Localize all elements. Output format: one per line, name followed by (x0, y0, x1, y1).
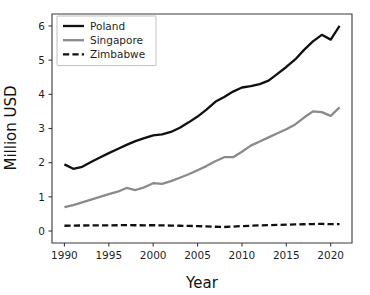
x-tick-label: 2010 (229, 249, 256, 261)
y-tick-label: 2 (38, 156, 45, 168)
x-tick-label: 2005 (184, 249, 211, 261)
y-tick-label: 3 (38, 122, 45, 134)
y-axis-ticks: 0123456 (38, 20, 52, 237)
x-axis-ticks: 1990199520002005201020152020 (51, 243, 344, 261)
y-axis-title: Million USD (2, 85, 20, 170)
legend-label-zimbabwe: Zimbabwe (90, 48, 145, 60)
x-tick-label: 2015 (273, 249, 300, 261)
y-tick-label: 4 (38, 88, 45, 100)
y-tick-label: 0 (38, 225, 45, 237)
legend-label-singapore: Singapore (90, 34, 143, 46)
chart-figure: 1990199520002005201020152020 0123456 Pol… (0, 0, 370, 295)
line-chart: 1990199520002005201020152020 0123456 Pol… (0, 0, 370, 295)
legend-label-poland: Poland (90, 20, 125, 32)
y-tick-label: 6 (38, 20, 45, 32)
x-tick-label: 2000 (140, 249, 167, 261)
y-tick-label: 1 (38, 191, 45, 203)
chart-legend: PolandSingaporeZimbabwe (57, 16, 156, 66)
x-tick-label: 2020 (317, 249, 344, 261)
x-tick-label: 1995 (95, 249, 122, 261)
x-tick-label: 1990 (51, 249, 78, 261)
x-axis-title: Year (185, 274, 219, 292)
y-tick-label: 5 (38, 54, 45, 66)
